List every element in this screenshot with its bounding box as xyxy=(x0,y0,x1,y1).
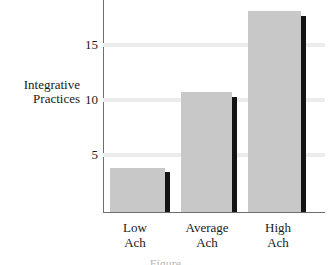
bar-high-ach[interactable] xyxy=(248,0,306,212)
x-category-label-average-ach-line-2: Ach xyxy=(170,235,244,250)
y-tick-label-10: 10 xyxy=(72,93,98,106)
y-tick-label-15: 15 xyxy=(72,38,98,51)
bar-fill-high-ach xyxy=(248,11,301,212)
y-axis-title: Integrative Practices xyxy=(4,78,80,106)
bar-average-ach[interactable] xyxy=(181,0,237,212)
y-axis-title-line-1: Integrative xyxy=(4,78,80,92)
x-category-label-high-ach-line-1: High xyxy=(246,220,310,235)
bar-fill-low-ach xyxy=(110,168,165,212)
y-tick-label-5: 5 xyxy=(72,148,98,161)
x-category-label-high-ach: High Ach xyxy=(246,220,310,250)
x-category-label-average-ach-line-1: Average xyxy=(170,220,244,235)
x-axis-line xyxy=(103,212,325,213)
x-category-label-low-ach: Low Ach xyxy=(104,220,166,250)
y-axis-title-line-2: Practices xyxy=(4,92,80,106)
bar-fill-average-ach xyxy=(181,92,232,212)
x-category-label-low-ach-line-2: Ach xyxy=(104,235,166,250)
bar-chart: Integrative Practices 15 10 5 Low Ac xyxy=(0,0,331,265)
x-category-label-high-ach-line-2: Ach xyxy=(246,235,310,250)
x-category-label-low-ach-line-1: Low xyxy=(104,220,166,235)
x-category-label-average-ach: Average Ach xyxy=(170,220,244,250)
figure-caption-cropped: Figure xyxy=(0,258,331,265)
plot-area xyxy=(103,0,325,212)
bar-low-ach[interactable] xyxy=(110,0,170,212)
